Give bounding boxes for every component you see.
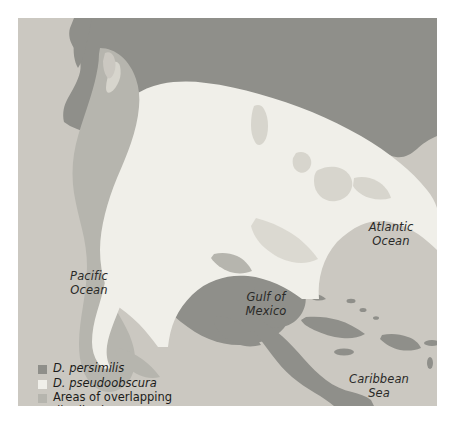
legend-label-d-persimilis: D. persimilis	[53, 362, 124, 376]
ocean-label-caribbean-sea: Caribbean Sea	[337, 373, 421, 400]
legend-swatch-d-pseudoobscura	[38, 380, 47, 389]
map-legend: D. persimilis D. pseudoobscura Areas of …	[38, 362, 208, 406]
legend-swatch-d-persimilis	[38, 365, 47, 374]
legend-swatch-overlap	[38, 394, 47, 403]
legend-item-d-pseudoobscura: D. pseudoobscura	[38, 377, 208, 391]
ocean-label-atlantic: Atlantic Ocean	[355, 221, 427, 248]
ocean-label-pacific: Pacific Ocean	[54, 270, 124, 297]
legend-item-d-persimilis: D. persimilis	[38, 362, 208, 376]
bahamas-island	[373, 316, 379, 320]
ocean-label-gulf-of-mexico: Gulf of Mexico	[227, 291, 305, 318]
map-canvas	[18, 18, 437, 406]
legend-label-d-pseudoobscura: D. pseudoobscura	[53, 377, 157, 391]
legend-label-overlap: Areas of overlapping distribution	[53, 391, 172, 406]
bahamas-island	[360, 308, 367, 312]
distribution-map-figure: Pacific Ocean Atlantic Ocean Gulf of Mex…	[0, 0, 460, 426]
map-plate: Pacific Ocean Atlantic Ocean Gulf of Mex…	[18, 18, 437, 406]
bahamas-island	[347, 299, 356, 303]
lesser-antilles-island	[427, 357, 433, 369]
legend-item-overlap: Areas of overlapping distribution	[38, 391, 208, 406]
jamaica-island	[334, 349, 354, 356]
